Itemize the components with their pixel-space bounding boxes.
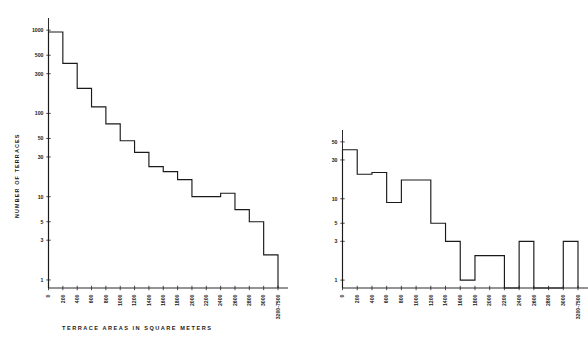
left-step-series	[49, 32, 279, 288]
left-x-tick-labels: 0200400600800100012001400160018002000220…	[45, 294, 280, 319]
x-tick-label: 600	[383, 294, 389, 303]
x-tick-label: 0	[45, 294, 51, 297]
right-axes	[340, 130, 588, 290]
x-tick-label: 0	[339, 294, 345, 297]
x-tick-label: 1400	[146, 294, 152, 306]
y-tick-label: 1	[41, 277, 44, 283]
x-tick-label: 1600	[160, 294, 166, 306]
x-tick-label: 2200	[203, 294, 209, 306]
left-axes	[46, 18, 288, 290]
x-tick-label: 3200-7500	[575, 294, 581, 319]
y-tick-label: 10	[38, 194, 44, 200]
x-tick-label: 2000	[486, 294, 492, 306]
y-tick-label: 50	[38, 135, 44, 141]
y-tick-label: 500	[35, 52, 44, 58]
x-tick-label: 2600	[531, 294, 537, 306]
y-tick-label: 30	[38, 154, 44, 160]
x-tick-label: 1800	[174, 294, 180, 306]
chart-panel-left: 1000500300100503010531 02004006008001000…	[0, 0, 294, 346]
x-tick-label: 2400	[516, 294, 522, 306]
x-tick-label: 400	[369, 294, 375, 303]
x-tick-label: 1400	[442, 294, 448, 306]
x-tick-label: 2800	[246, 294, 252, 306]
y-tick-label: 100	[35, 110, 44, 116]
left-y-tick-labels: 1000500300100503010531	[32, 27, 44, 283]
x-tick-label: 2000	[189, 294, 195, 306]
x-tick-label: 1000	[413, 294, 419, 306]
y-tick-label: 3	[41, 237, 44, 243]
x-tick-label: 800	[103, 294, 109, 303]
left-histogram-plot: 1000500300100503010531 02004006008001000…	[0, 0, 294, 346]
y-tick-label: 5	[41, 219, 44, 225]
x-tick-label: 1600	[457, 294, 463, 306]
right-x-tick-labels: 0200400600800100012001400160018002000220…	[339, 294, 581, 319]
x-tick-label: 1200	[131, 294, 137, 306]
x-tick-label: 600	[88, 294, 94, 303]
x-tick-label: 2200	[501, 294, 507, 306]
x-tick-label: 200	[354, 294, 360, 303]
y-tick-label: 30	[332, 157, 338, 163]
left-y-axis-title: NUMBER OF TERRACES	[14, 134, 20, 219]
figure-root: 1000500300100503010531 02004006008001000…	[0, 0, 588, 346]
x-tick-label: 3200-7500	[275, 294, 281, 319]
x-tick-label: 400	[74, 294, 80, 303]
x-tick-label: 800	[398, 294, 404, 303]
chart-panel-right: 503010531 020040060080010001200140016001…	[294, 0, 588, 346]
y-tick-label: 5	[335, 220, 338, 226]
x-tick-label: 3000	[560, 294, 566, 306]
x-tick-label: 3000	[260, 294, 266, 306]
y-tick-label: 1000	[32, 27, 44, 33]
x-tick-label: 2800	[545, 294, 551, 306]
x-tick-label: 2400	[217, 294, 223, 306]
x-tick-label: 1200	[428, 294, 434, 306]
left-x-axis-title: TERRACE AREAS IN SQUARE METERS	[62, 325, 212, 331]
right-step-series	[343, 150, 579, 288]
y-tick-label: 300	[35, 71, 44, 77]
x-tick-label: 200	[60, 294, 66, 303]
y-tick-label: 10	[332, 196, 338, 202]
x-tick-label: 1000	[117, 294, 123, 306]
right-y-tick-labels: 503010531	[332, 139, 338, 283]
x-tick-label: 2600	[232, 294, 238, 306]
y-tick-label: 50	[332, 139, 338, 145]
right-histogram-plot: 503010531 020040060080010001200140016001…	[294, 0, 588, 346]
y-tick-label: 3	[335, 238, 338, 244]
x-tick-label: 1800	[472, 294, 478, 306]
y-tick-label: 1	[335, 277, 338, 283]
